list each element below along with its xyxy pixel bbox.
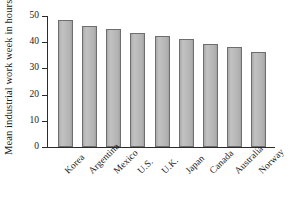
y-axis-tick-label: 50: [30, 9, 40, 22]
x-axis-tick-label: U.S.: [135, 156, 156, 177]
bar: [58, 20, 73, 147]
y-axis-tick: 0: [42, 147, 47, 148]
y-axis-tick-label: 10: [30, 114, 40, 127]
x-axis-line: [47, 147, 275, 148]
y-axis-tick-label: 0: [34, 140, 39, 153]
bar: [82, 26, 97, 147]
y-axis-tick-label: 20: [30, 88, 40, 101]
x-axis-tick-label: Korea: [62, 151, 87, 176]
y-axis-title: Mean industrial work week in hours: [2, 5, 16, 155]
x-axis-tick-label: Japan: [183, 152, 207, 176]
x-axis-tick-label: U.K.: [159, 155, 181, 177]
x-axis-tick-label: Canada: [207, 147, 236, 176]
bar: [130, 33, 145, 147]
y-axis-tick-label: 30: [30, 61, 40, 74]
bar: [106, 29, 121, 147]
bar: [155, 36, 170, 147]
bar: [203, 44, 218, 147]
bar: [179, 39, 194, 147]
bar: [251, 52, 266, 147]
bars-layer: [47, 16, 275, 147]
bar: [227, 47, 242, 147]
plot-area: 01020304050 KoreaArgentinaMexicoU.S.U.K.…: [47, 16, 275, 147]
bar-chart-figure: Mean industrial work week in hours 01020…: [0, 0, 291, 202]
y-axis-tick-label: 40: [30, 35, 40, 48]
